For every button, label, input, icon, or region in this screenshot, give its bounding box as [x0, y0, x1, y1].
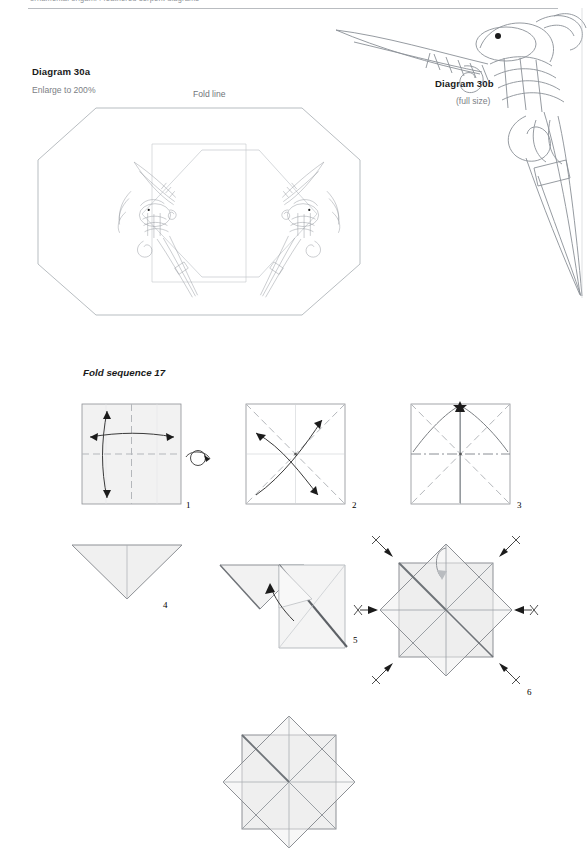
- fold-line-label: Fold line: [193, 89, 225, 99]
- step-number-6: 6: [527, 687, 532, 697]
- diagram-30a-scale-note: Enlarge to 200%: [32, 85, 96, 95]
- serpent-motif-right: [260, 162, 339, 297]
- step-number-2: 2: [352, 500, 357, 510]
- fold-step-4: 4: [72, 545, 182, 610]
- document-page: ornamental origami : feathered serpent d…: [0, 0, 587, 856]
- step-number-1: 1: [186, 500, 191, 510]
- running-header-text: ornamental origami : feathered serpent d…: [30, 0, 560, 6]
- fold-step-2: 2: [246, 404, 357, 510]
- turn-over-icon: [186, 451, 210, 466]
- fold-step-1: 1: [82, 404, 210, 510]
- fold-step-6: 6: [354, 536, 538, 697]
- diagram-30b-artwork: [330, 8, 587, 300]
- finished-model: [223, 716, 355, 848]
- diagram-30a-title: Diagram 30a: [32, 66, 90, 77]
- fold-step-3: 3: [411, 401, 522, 510]
- fold-sequence-artwork: 1 2: [60, 395, 580, 845]
- step-number-4: 4: [163, 600, 168, 610]
- fold-step-5: 5: [220, 565, 358, 648]
- serpent-motif-left: [118, 162, 197, 297]
- fold-sequence-title: Fold sequence 17: [83, 367, 165, 378]
- diagram-30a-artwork: [34, 104, 364, 319]
- step-number-5: 5: [353, 635, 358, 645]
- step-number-3: 3: [517, 500, 522, 510]
